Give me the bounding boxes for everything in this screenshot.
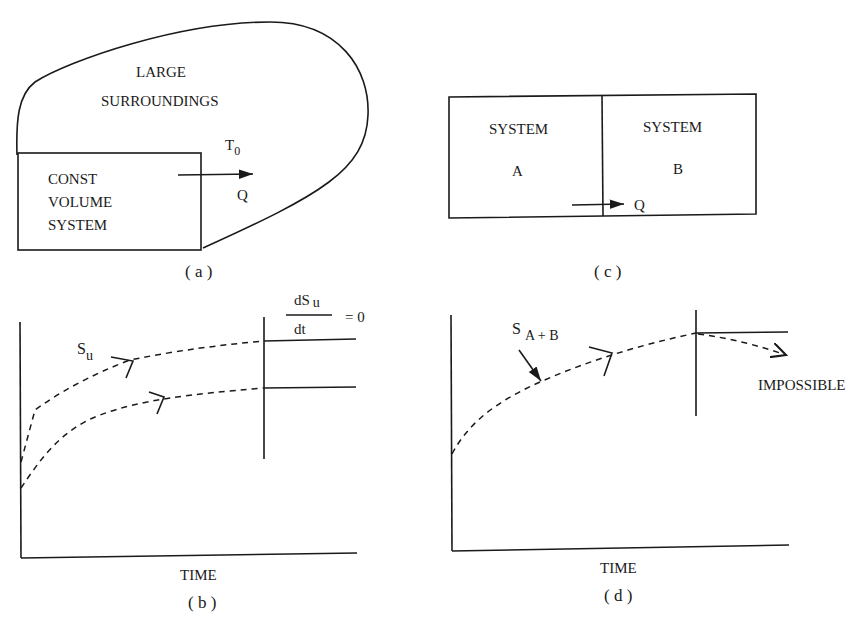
derivative-numerator: dSu (294, 292, 320, 310)
plateau-d (696, 332, 788, 333)
impossible-label: IMPOSSIBLE (758, 377, 846, 393)
system-a-label-line2: A (512, 163, 523, 179)
panel-d: SA + B IMPOSSIBLE TIME ( d ) (451, 310, 846, 605)
x-axis-label-d: TIME (600, 560, 637, 576)
heat-flow-arrow-c (572, 204, 624, 205)
x-axis-label-b: TIME (180, 567, 217, 583)
system-label-line1: CONST (48, 171, 97, 187)
impossible-decrease-curve (698, 334, 786, 355)
combined-entropy-curve (452, 333, 696, 454)
derivative-equals-zero: = 0 (345, 309, 365, 325)
panel-a: LARGE SURROUNDINGS T0 Q CONST VOLUME SYS… (17, 22, 368, 281)
entropy-label-sab: SA + B (512, 320, 558, 343)
direction-arrow-d (589, 347, 612, 376)
entropy-label-su: Su (77, 340, 93, 363)
surroundings-boundary (17, 22, 368, 248)
panel-c: SYSTEM A SYSTEM B Q ( c ) (449, 94, 756, 281)
label-pointer-arrow (519, 350, 541, 381)
direction-arrow-upper (111, 357, 133, 378)
system-label-line3: SYSTEM (48, 217, 107, 233)
upper-plateau-b (264, 339, 356, 341)
derivative-denominator: dt (294, 321, 307, 337)
surroundings-label-line2: SURROUNDINGS (101, 93, 219, 109)
y-axis-b (20, 322, 21, 558)
caption-c: ( c ) (594, 262, 621, 281)
thermodynamics-figure: LARGE SURROUNDINGS T0 Q CONST VOLUME SYS… (0, 0, 866, 629)
system-a-label-line1: SYSTEM (489, 121, 548, 137)
x-axis-b (21, 553, 357, 558)
lower-plateau-b (264, 387, 356, 388)
caption-d: ( d ) (604, 586, 632, 605)
heat-flow-arrow (178, 174, 253, 175)
y-axis-d (451, 315, 452, 551)
temperature-label: T0 (225, 137, 240, 158)
heat-label-a: Q (237, 187, 248, 203)
upper-entropy-curve (21, 341, 264, 462)
x-axis-d (452, 545, 789, 551)
system-divider (602, 96, 603, 216)
caption-a: ( a ) (185, 262, 212, 281)
surroundings-label-line1: LARGE (136, 64, 186, 80)
panel-b: Su dSu dt = 0 TIME ( b ) (20, 292, 365, 612)
system-b-label-line2: B (673, 161, 683, 177)
system-label-line2: VOLUME (48, 194, 112, 210)
heat-label-c: Q (634, 197, 645, 213)
caption-b: ( b ) (188, 593, 216, 612)
direction-arrow-lower (149, 392, 164, 414)
system-b-label-line1: SYSTEM (643, 119, 702, 135)
lower-entropy-curve (21, 388, 264, 488)
